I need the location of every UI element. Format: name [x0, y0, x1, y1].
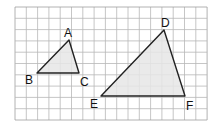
triangle-def [101, 30, 185, 96]
similar-triangles-diagram: ABCDEF [0, 0, 218, 124]
vertex-label-b: B [25, 73, 33, 87]
vertex-label-e: E [90, 97, 98, 111]
triangle-abc [37, 40, 79, 73]
grid-paper [15, 7, 207, 120]
vertex-label-f: F [186, 99, 193, 113]
vertex-label-c: C [80, 75, 89, 89]
vertex-label-a: A [64, 26, 72, 40]
vertex-label-d: D [161, 16, 170, 30]
